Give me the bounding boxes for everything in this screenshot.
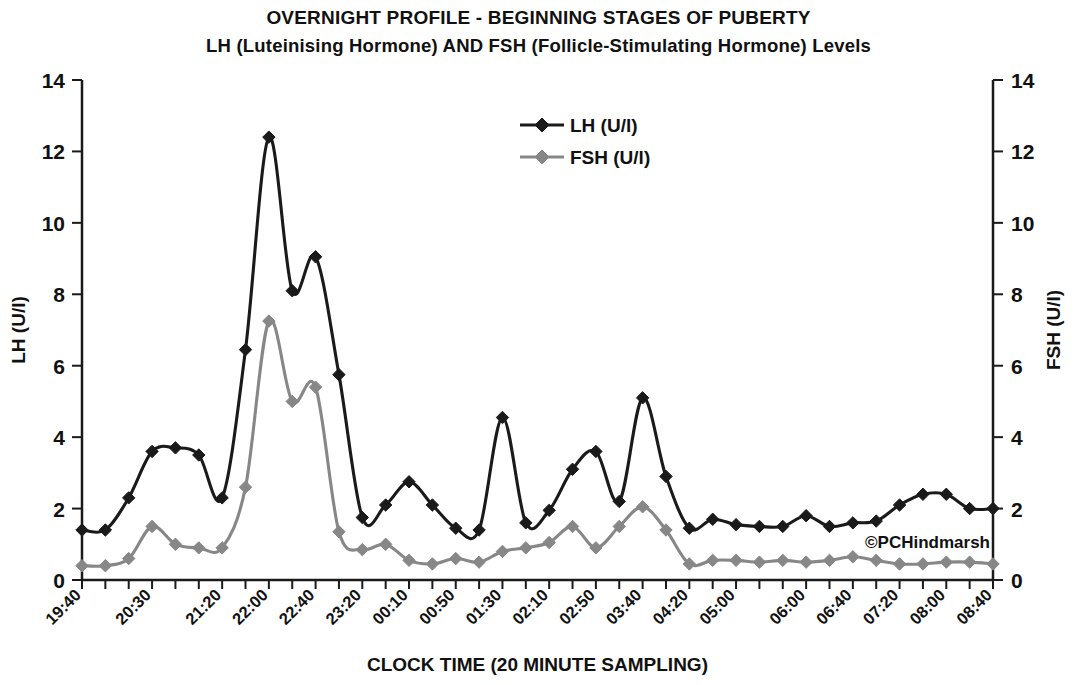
data-point-marker (76, 524, 88, 536)
x-tick-label: 02:50 (555, 585, 598, 628)
data-point-marker (706, 554, 718, 566)
x-tick-label: 22:00 (228, 585, 271, 628)
y-tick-label-right: 12 (1011, 140, 1034, 163)
series-line (82, 137, 993, 539)
data-point-marker (963, 502, 975, 514)
x-axis-title: CLOCK TIME (20 MINUTE SAMPLING) (367, 654, 708, 675)
series-line (82, 319, 993, 566)
watermark-text: ©PCHindmarsh (865, 533, 990, 552)
x-tick-label: 06:40 (812, 585, 855, 628)
data-point-marker (333, 526, 345, 538)
legend-marker-icon (535, 118, 549, 132)
data-point-marker (753, 556, 765, 568)
data-point-marker (473, 524, 485, 536)
y-axis-right-title: FSH (U/l) (1043, 290, 1064, 370)
data-point-marker (660, 470, 672, 482)
data-series-group (76, 131, 999, 572)
chart-plot-area: 19:4020:3021:2022:0022:4023:2000:1000:50… (0, 0, 1077, 685)
data-point-marker (847, 517, 859, 529)
x-tick-label: 07:20 (859, 585, 902, 628)
y-tick-label-right: 8 (1011, 283, 1023, 306)
data-point-marker (356, 543, 368, 555)
x-tick-label: 06:00 (766, 585, 809, 628)
data-point-marker (169, 442, 181, 454)
data-point-marker (193, 542, 205, 554)
data-point-marker (847, 551, 859, 563)
y-tick-label-left: 8 (53, 283, 65, 306)
legend: LH (U/l)FSH (U/l) (520, 115, 650, 168)
data-point-marker (473, 556, 485, 568)
data-point-marker (777, 554, 789, 566)
y-tick-label-left: 2 (53, 498, 65, 521)
x-tick-label: 00:10 (369, 585, 412, 628)
data-point-marker (706, 513, 718, 525)
y-tick-label-right: 10 (1011, 212, 1034, 235)
data-point-marker (917, 558, 929, 570)
legend-label: FSH (U/l) (570, 147, 650, 168)
y-tick-label-right: 2 (1011, 498, 1023, 521)
data-point-marker (963, 556, 975, 568)
y-tick-label-left: 6 (53, 355, 65, 378)
data-point-marker (940, 488, 952, 500)
data-point-marker (239, 343, 251, 355)
data-point-marker (870, 554, 882, 566)
y-tick-label-right: 0 (1011, 569, 1023, 592)
x-tick-label: 08:40 (953, 585, 996, 628)
data-point-marker (823, 520, 835, 532)
x-tick-label: 02:10 (509, 585, 552, 628)
x-tick-label: 20:30 (112, 585, 155, 628)
data-point-marker (239, 481, 251, 493)
x-tick-label: 21:20 (182, 585, 225, 628)
x-tick-label: 00:50 (415, 585, 458, 628)
y-tick-label-right: 14 (1011, 69, 1035, 92)
data-point-marker (286, 395, 298, 407)
y-tick-label-right: 4 (1011, 426, 1023, 449)
y-tick-label-left: 14 (42, 69, 66, 92)
chart-svg: 19:4020:3021:2022:0022:4023:2000:1000:50… (0, 0, 1077, 685)
x-tick-label: 08:00 (906, 585, 949, 628)
data-point-marker (496, 545, 508, 557)
data-point-marker (870, 515, 882, 527)
x-tick-label: 03:40 (602, 585, 645, 628)
y-tick-label-left: 12 (42, 140, 65, 163)
data-point-marker (730, 554, 742, 566)
data-point-marker (76, 560, 88, 572)
data-point-marker (333, 368, 345, 380)
x-tick-label: 22:40 (275, 585, 318, 628)
x-tick-label: 05:00 (696, 585, 739, 628)
data-point-marker (379, 538, 391, 550)
data-point-marker (940, 556, 952, 568)
y-tick-label-left: 4 (53, 426, 65, 449)
y-tick-label-right: 6 (1011, 355, 1023, 378)
legend-marker-icon (535, 150, 549, 164)
data-point-marker (613, 495, 625, 507)
data-point-marker (99, 560, 111, 572)
data-point-marker (753, 520, 765, 532)
chart-page: OVERNIGHT PROFILE - BEGINNING STAGES OF … (0, 0, 1077, 685)
data-point-marker (730, 518, 742, 530)
data-point-marker (356, 511, 368, 523)
data-point-marker (520, 542, 532, 554)
data-point-marker (403, 476, 415, 488)
legend-item[interactable]: FSH (U/l) (520, 147, 650, 168)
data-point-marker (777, 520, 789, 532)
x-tick-label: 04:20 (649, 585, 692, 628)
legend-label: LH (U/l) (570, 115, 638, 136)
watermark: ©PCHindmarsh (865, 533, 990, 552)
series-fsh (76, 315, 999, 572)
axis-titles: LH (U/l)FSH (U/l)CLOCK TIME (20 MINUTE S… (8, 290, 1064, 675)
data-point-marker (636, 501, 648, 513)
data-point-marker (309, 251, 321, 263)
series-lh (76, 131, 999, 539)
data-point-marker (987, 558, 999, 570)
data-point-marker (987, 502, 999, 514)
data-point-marker (590, 542, 602, 554)
legend-item[interactable]: LH (U/l) (520, 115, 638, 136)
x-tick-label: 23:20 (322, 585, 365, 628)
data-point-marker (917, 488, 929, 500)
y-axis-left-title: LH (U/l) (8, 296, 29, 364)
y-tick-label-left: 10 (42, 212, 65, 235)
data-point-marker (800, 510, 812, 522)
x-tick-label: 01:30 (462, 585, 505, 628)
x-tick-labels: 19:4020:3021:2022:0022:4023:2000:1000:50… (42, 585, 996, 628)
